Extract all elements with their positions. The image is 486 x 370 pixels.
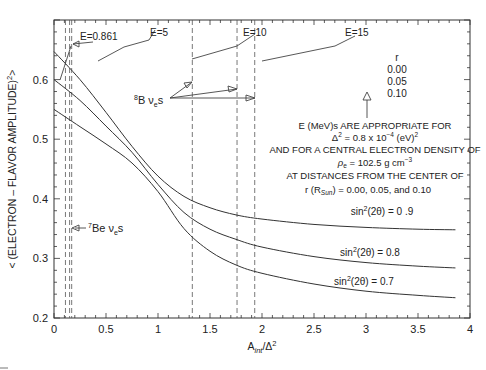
notes-block: E (MeV)s ARE APPROPRIATE FOR Δ2 = 0.8 x … xyxy=(269,120,480,196)
note-line-4: ρe = 102.5 g cm−3 xyxy=(337,156,413,169)
x-tick-label: 0 xyxy=(51,323,57,335)
label-e15: E=15 xyxy=(345,27,369,38)
series-label-09: sin2(2θ) = 0 .9 xyxy=(351,205,414,217)
x-tick-label: 1.5 xyxy=(202,323,217,335)
x-tick-label: 0.5 xyxy=(98,323,113,335)
note-line-5: AT DISTANCES FROM THE CENTER OF xyxy=(286,170,463,181)
note-line-2: Δ2 = 0.8 x 10−4 (eV)2 xyxy=(332,131,419,143)
y-axis-title: < (ELECTRON – FLAVOR AMPLITUDE)2> xyxy=(5,70,18,269)
note-line-6: r (RSun) = 0.00, 0.05, and 0.10 xyxy=(305,184,431,196)
r-legend-1: 0.05 xyxy=(387,76,407,87)
x-tick-label: 1 xyxy=(155,323,161,335)
x-axis-title: Aint/Δ2 xyxy=(247,339,276,355)
dashed-energy-lines xyxy=(65,20,254,318)
x-tick-label: 4 xyxy=(467,323,473,335)
x-tick-label: 3 xyxy=(363,323,369,335)
y-tick-label: 0.4 xyxy=(33,193,48,205)
note-line-1: E (MeV)s ARE APPROPRIATE FOR xyxy=(299,120,452,131)
x-tick-label: 2.5 xyxy=(306,323,321,335)
y-tick-label: 0.2 xyxy=(33,312,48,324)
label-e10: E=10 xyxy=(243,27,267,38)
label-e0861: E=0.861 xyxy=(80,31,118,42)
y-tick-label: 0.5 xyxy=(33,133,48,145)
y-tick-label: 0.6 xyxy=(33,74,48,86)
x-tick-label: 2 xyxy=(259,323,265,335)
be7-label: 7Be νes xyxy=(88,222,124,236)
series-label-08: sin2(2θ) = 0.8 xyxy=(340,246,400,258)
y-tick-label: 0.3 xyxy=(33,252,48,264)
r-legend-0: 0.00 xyxy=(387,64,407,75)
label-e5: E=5 xyxy=(150,27,169,38)
r-legend-2: 0.10 xyxy=(387,88,407,99)
r-legend-title: r xyxy=(395,52,399,63)
note-line-3: AND FOR A CENTRAL ELECTRON DENSITY OF xyxy=(269,144,480,155)
series-label-07: sin2(2θ) = 0.7 xyxy=(334,275,394,287)
x-tick-label: 3.5 xyxy=(410,323,425,335)
plot-svg: 00.511.522.533.540.20.30.40.50.6 E=0.861… xyxy=(0,0,486,370)
chart: 00.511.522.533.540.20.30.40.50.6 E=0.861… xyxy=(0,0,486,370)
b8-label: 8B νes xyxy=(134,94,164,108)
